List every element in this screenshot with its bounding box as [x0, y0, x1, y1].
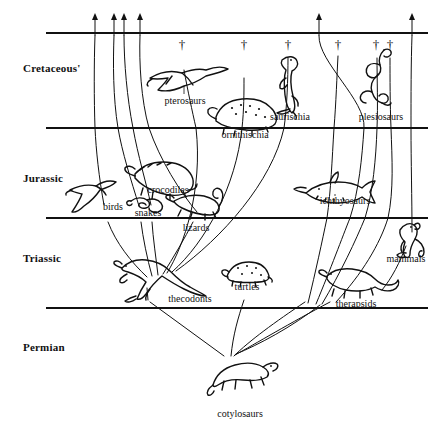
- taxon-label-ornithischia: ornithischia: [221, 129, 268, 140]
- taxon-label-turtles: turtles: [235, 281, 260, 292]
- taxon-label-lizards: lizards: [183, 222, 210, 233]
- lineage-to-ichthyosaurs: [308, 56, 338, 303]
- extinction-dagger-pterosaurs: †: [179, 38, 186, 51]
- era-label-triassic: Triassic: [23, 252, 61, 264]
- taxon-label-therapsids: therapsids: [336, 298, 377, 309]
- phylogeny-figure: Cretaceous' Jurassic Triassic Permian † …: [0, 0, 447, 440]
- extinction-dagger-right-outer: †: [387, 38, 394, 51]
- lineage-thecodonts-to-saurischia: [176, 58, 288, 271]
- era-label-jurassic: Jurassic: [23, 172, 63, 184]
- label-leaders: [184, 86, 335, 196]
- lineage-thecodonts-to-ornithischia: [172, 78, 244, 272]
- extinction-dagger-plesiosaurs: †: [373, 38, 380, 51]
- lineage-cotylosaurs-to-marine: [236, 305, 320, 354]
- taxon-label-ichthyosaurs: ichthyosaurs: [320, 195, 371, 206]
- taxon-label-crocodiles: crocodiles: [147, 184, 188, 195]
- extinction-dagger-saurischia: †: [285, 38, 292, 51]
- era-label-cretaceous: Cretaceous': [23, 62, 81, 74]
- lineage-cotylosaurs-to-therapsids: [235, 302, 330, 355]
- extinction-dagger-ichthyosaurs: †: [335, 38, 342, 51]
- cotylosaur-icon: [207, 363, 277, 395]
- lineage-survivor-right-inner: [316, 36, 364, 304]
- lineage-snakes-survives: [113, 36, 139, 206]
- taxon-label-pterosaurs: pterosaurs: [164, 95, 205, 106]
- taxon-label-plesiosaurs: plesiosaurs: [359, 111, 403, 122]
- lineage-thecodonts-to-birds: [108, 222, 147, 277]
- taxon-label-mammals: mammals: [387, 253, 426, 264]
- extinction-dagger-ornithischia: †: [241, 38, 248, 51]
- lineage-cotylosaurs-to-thecodonts: [150, 302, 224, 356]
- era-label-permian: Permian: [23, 341, 65, 353]
- plesiosaur-icon: [360, 49, 391, 105]
- taxon-label-cotylosaurs: cotylosaurs: [217, 408, 263, 419]
- lineage-right-outer-extinct: [336, 58, 392, 302]
- lineage-mammals-survives: [411, 36, 412, 232]
- lineage-birds-survives: [94, 36, 104, 205]
- taxon-label-birds: birds: [103, 201, 123, 212]
- taxon-label-saurischia: saurischia: [270, 111, 310, 122]
- taxon-label-snakes: snakes: [135, 207, 162, 218]
- animal-silhouettes: [66, 49, 424, 395]
- taxon-label-thecodonts: thecodonts: [168, 293, 211, 304]
- lineage-thecodonts-to-crocodiles: [152, 222, 158, 275]
- era-boundaries: [46, 33, 428, 308]
- lineage-cotylosaurs-to-diapsids: [234, 302, 305, 356]
- lineage-thecodonts-to-snakes: [141, 222, 152, 276]
